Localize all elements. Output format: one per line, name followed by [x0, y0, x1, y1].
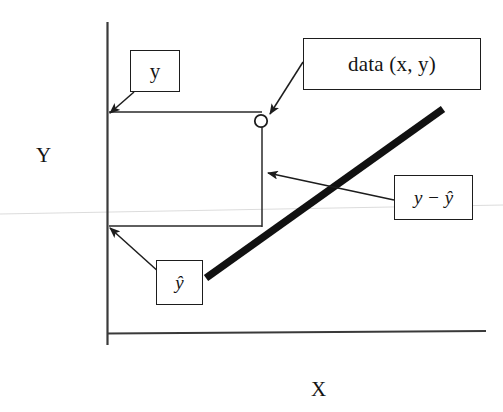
observed-leader-arrow [110, 92, 134, 113]
fitted-callout-box: ŷ [156, 260, 203, 305]
x-axis [107, 331, 486, 334]
fitted-leader-arrow [110, 228, 160, 273]
regression-residual-figure: data (x, y) y y − ŷ ŷ Y X [0, 0, 503, 412]
data-point-marker [255, 115, 267, 127]
data-point-callout-text: data (x, y) [348, 54, 436, 75]
observed-callout-box: y [130, 50, 180, 92]
residual-callout-box: y − ŷ [394, 175, 473, 220]
x-axis-label: X [311, 379, 326, 400]
residual-callout-text: y − ŷ [414, 188, 453, 207]
fitted-callout-text: ŷ [175, 273, 183, 292]
data-point-leader-arrow [270, 62, 303, 114]
residual-leader-arrow [268, 173, 394, 200]
observed-callout-text: y [150, 61, 161, 82]
y-axis-label: Y [36, 145, 51, 166]
data-point-callout-box: data (x, y) [303, 38, 481, 90]
